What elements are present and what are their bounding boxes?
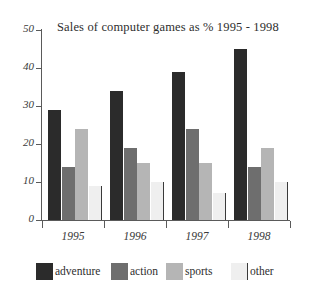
bar-adventure-1997	[172, 72, 185, 220]
bar-action-1997	[186, 129, 199, 220]
bar-sports-1998	[261, 148, 274, 220]
bar-group	[166, 30, 228, 220]
bar-adventure-1998	[234, 49, 247, 220]
bar-adventure-1996	[110, 91, 123, 220]
bar-group	[228, 30, 290, 220]
bar-sports-1996	[137, 163, 150, 220]
bar-other-1995	[89, 186, 102, 220]
x-axis-tick	[42, 221, 43, 228]
x-axis-tick-label: 1997	[166, 230, 228, 242]
y-axis-tick-label: 50	[4, 22, 34, 34]
legend-label-sports: sports	[185, 265, 212, 277]
y-axis-tick	[36, 68, 42, 69]
legend-swatch-adventure	[36, 263, 53, 280]
y-axis-tick-label: 10	[4, 174, 34, 186]
x-axis-tick	[290, 221, 291, 228]
bar-sports-1997	[199, 163, 212, 220]
chart-legend: adventureactionsportsother	[36, 261, 286, 283]
legend-label-other: other	[250, 265, 274, 277]
legend-item-other: other	[231, 261, 274, 281]
bar-action-1996	[124, 148, 137, 220]
y-axis-tick	[36, 106, 42, 107]
legend-label-action: action	[130, 265, 158, 277]
bar-action-1995	[62, 167, 75, 220]
legend-swatch-action	[111, 263, 128, 280]
x-axis-tick-label: 1998	[228, 230, 290, 242]
x-axis-tick-label: 1995	[42, 230, 104, 242]
x-axis-tick-label: 1996	[104, 230, 166, 242]
bar-other-1996	[151, 182, 164, 220]
bar-chart: Sales of computer games as % 1995 - 1998…	[0, 0, 311, 297]
legend-item-adventure: adventure	[36, 261, 100, 281]
y-axis-tick	[36, 182, 42, 183]
bar-sports-1995	[75, 129, 88, 220]
legend-swatch-sports	[166, 263, 183, 280]
y-axis-tick	[36, 144, 42, 145]
y-axis-tick-label: 40	[4, 60, 34, 72]
bar-other-1997	[213, 193, 226, 220]
bar-group	[104, 30, 166, 220]
y-axis-tick-label: 30	[4, 98, 34, 110]
plot-area	[42, 30, 290, 220]
legend-item-action: action	[111, 261, 158, 281]
y-axis-tick-label: 20	[4, 136, 34, 148]
x-axis-tick	[166, 221, 167, 228]
legend-swatch-other	[231, 263, 248, 280]
bar-adventure-1995	[48, 110, 61, 220]
bar-group	[42, 30, 104, 220]
x-axis-tick	[228, 221, 229, 228]
legend-item-sports: sports	[166, 261, 212, 281]
legend-label-adventure: adventure	[55, 265, 100, 277]
y-axis-tick	[36, 30, 42, 31]
y-axis-label-group: 50403020100	[0, 0, 34, 297]
y-axis-tick-label: 0	[4, 212, 34, 224]
x-axis-tick	[104, 221, 105, 228]
bar-other-1998	[275, 182, 288, 220]
bar-action-1998	[248, 167, 261, 220]
